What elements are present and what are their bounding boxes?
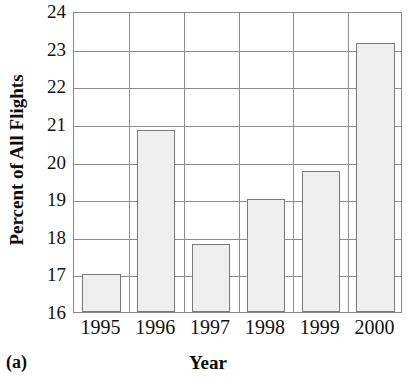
gridline-vertical [184,13,185,312]
bar-1997 [192,244,230,312]
y-axis-title-container: Percent of All Flights [0,0,34,320]
x-tick-label: 1999 [292,316,347,338]
gridline-vertical [239,13,240,312]
x-tick-label: 1996 [128,316,183,338]
bar-1999 [302,171,340,312]
plot-area [73,12,402,313]
y-tick-label: 24 [34,2,66,21]
gridline-vertical [129,13,130,312]
y-tick-label: 16 [34,303,66,322]
gridline-horizontal [74,51,401,52]
x-axis-tick-labels: 199519961997199819992000 [73,316,402,344]
y-tick-label: 23 [34,40,66,59]
bar-chart-figure: Percent of All Flights 24232221201918171… [0,0,416,390]
bar-1998 [247,199,285,312]
gridline-vertical [348,13,349,312]
y-axis-title: Percent of All Flights [6,74,28,245]
gridline-horizontal [74,164,401,165]
bar-1996 [137,130,175,312]
bar-1995 [82,274,120,312]
x-axis-title: Year [0,352,416,374]
x-tick-label: 1995 [73,316,128,338]
y-tick-label: 19 [34,190,66,209]
y-axis-tick-labels: 242322212019181716 [34,0,70,330]
gridline-horizontal [74,126,401,127]
y-tick-label: 18 [34,228,66,247]
y-tick-label: 20 [34,153,66,172]
y-tick-label: 22 [34,77,66,96]
x-tick-label: 1998 [238,316,293,338]
gridline-horizontal [74,201,401,202]
bar-2000 [356,43,394,312]
gridline-horizontal [74,88,401,89]
x-tick-label: 1997 [183,316,238,338]
x-tick-label: 2000 [347,316,402,338]
y-tick-label: 17 [34,265,66,284]
y-tick-label: 21 [34,115,66,134]
gridline-horizontal [74,276,401,277]
gridline-vertical [293,13,294,312]
gridline-horizontal [74,239,401,240]
